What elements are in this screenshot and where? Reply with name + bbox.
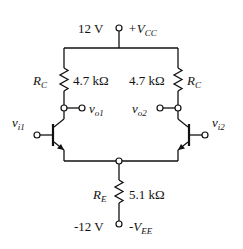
rc-left-name: RC [32, 73, 48, 90]
vi1-terminal [34, 132, 40, 138]
output-left: vo1 [61, 101, 104, 118]
vee-value-label: -12 V [74, 219, 104, 234]
rc-left-value: 4.7 kΩ [73, 73, 109, 88]
rc-left: RC 4.7 kΩ [32, 48, 109, 105]
resistor-zigzag-icon [115, 180, 123, 203]
vi1-label: vi1 [12, 115, 25, 132]
rc-right-name: RC [186, 73, 202, 90]
vo1-terminal [79, 105, 85, 111]
vo2-label: vo2 [132, 101, 147, 118]
re-resistor: RE 5.1 kΩ [92, 164, 165, 221]
vcc-value-label: 12 V [78, 21, 104, 36]
rc-right-value: 4.7 kΩ [129, 73, 165, 88]
resistor-zigzag-icon [60, 68, 68, 91]
transistor-q1-icon: vi1 [12, 111, 64, 161]
emitter-node [116, 158, 122, 164]
vcc-name-label: +VCC [128, 21, 158, 38]
vcc-supply: 12 V +VCC [78, 21, 158, 48]
vi2-label: vi2 [212, 115, 225, 132]
vo2-terminal [157, 105, 163, 111]
resistor-zigzag-icon [174, 68, 182, 91]
vee-supply: -12 V -VEE [74, 219, 153, 236]
re-value: 5.1 kΩ [129, 187, 165, 202]
vee-name-label: -VEE [129, 219, 153, 236]
re-name: RE [92, 187, 107, 204]
vo1-label: vo1 [89, 101, 104, 118]
rc-right: 4.7 kΩ RC [129, 48, 202, 105]
output-right: vo2 [132, 101, 181, 118]
vcc-terminal [116, 25, 122, 31]
vee-terminal [116, 221, 122, 227]
vi2-terminal [202, 132, 208, 138]
differential-amplifier-circuit: 12 V +VCC RC 4.7 kΩ 4.7 kΩ RC vo1 vo2 [0, 0, 243, 249]
transistor-q2-icon: vi2 [178, 111, 225, 161]
